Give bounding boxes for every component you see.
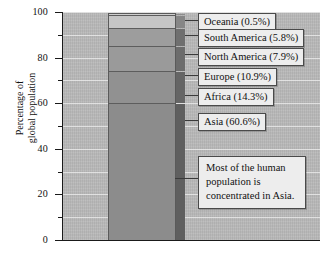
y-tick-80 [55, 58, 63, 59]
y-axis-title-line-1: Percentage of [14, 33, 26, 183]
label-south-america[interactable]: South America (5.8%) [198, 29, 304, 47]
y-tick-label-100: 100 [0, 6, 48, 17]
y-tick-20 [55, 194, 63, 195]
y-tick-0 [55, 240, 63, 241]
y-tick-50 [58, 126, 63, 127]
annotation-line-1: Most of the human [206, 161, 298, 175]
bar-segment-asia[interactable] [108, 103, 176, 240]
y-tick-70 [58, 80, 63, 81]
y-tick-label-0: 0 [0, 234, 48, 245]
y-tick-10 [58, 217, 63, 218]
plot-area: Oceania (0.5%) South America (5.8%) Nort… [63, 12, 320, 240]
bar-segment-europe[interactable] [108, 46, 176, 71]
bar-segment-africa[interactable] [108, 71, 176, 103]
label-north-america[interactable]: North America (7.9%) [198, 48, 304, 66]
gridline-60 [63, 103, 320, 104]
stacked-bar[interactable] [108, 13, 185, 240]
leader-line-europe [185, 75, 199, 76]
y-tick-100 [55, 12, 63, 13]
bar-segment-asia-side [176, 104, 185, 240]
y-tick-40 [55, 149, 63, 150]
bar-segment-south-america-side [176, 16, 185, 28]
x-axis-line [62, 240, 320, 241]
annotation-callout[interactable]: Most of the human population is concentr… [198, 156, 306, 209]
leader-line-north-america [185, 54, 199, 55]
label-europe[interactable]: Europe (10.9%) [198, 68, 277, 86]
bar-segment-south-america-face [108, 16, 176, 28]
bar-segment-europe-face [108, 47, 176, 71]
bar-segment-africa-face [108, 72, 176, 103]
bar-segment-north-america-side [176, 29, 185, 46]
y-tick-60 [55, 103, 63, 104]
annotation-line-2: population is [206, 175, 298, 189]
bar-segment-south-america[interactable] [108, 15, 176, 28]
leader-line-asia [185, 120, 199, 121]
gridline-10 [63, 217, 320, 218]
label-asia[interactable]: Asia (60.6%) [198, 113, 266, 131]
bar-segment-oceania-side [176, 14, 185, 15]
y-axis-title-line-2: global population [26, 33, 38, 183]
y-tick-label-20: 20 [0, 188, 48, 199]
y-tick-30 [58, 172, 63, 173]
bar-segment-asia-face [108, 104, 176, 240]
leader-line-callout [175, 178, 200, 179]
y-tick-90 [58, 35, 63, 36]
leader-line-africa [185, 95, 199, 96]
bar-segment-north-america[interactable] [108, 28, 176, 46]
bar-segment-africa-side [176, 72, 185, 103]
y-axis-title: Percentage of global population [14, 33, 38, 183]
bar-segment-north-america-face [108, 29, 176, 46]
chart-figure: Oceania (0.5%) South America (5.8%) Nort… [0, 0, 334, 265]
gridline-50 [63, 126, 320, 127]
label-africa[interactable]: Africa (14.3%) [198, 88, 274, 106]
gridline-70 [63, 80, 320, 81]
leader-line-south-america [185, 35, 199, 36]
gridline-100 [63, 12, 320, 13]
gridline-40 [63, 149, 320, 150]
bar-segment-europe-side [176, 47, 185, 71]
leader-line-oceania [185, 20, 199, 21]
annotation-line-3: concentrated in Asia. [206, 189, 298, 203]
